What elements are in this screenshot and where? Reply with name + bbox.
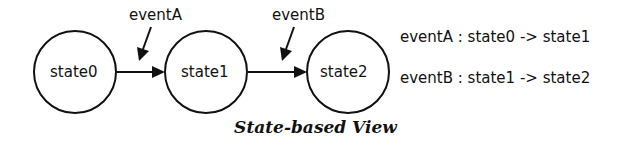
state2-label: state2 <box>320 63 368 81</box>
arrowhead-icon <box>152 66 165 78</box>
eventA-label: eventA <box>129 6 182 24</box>
state0-label: state0 <box>50 63 98 81</box>
arrowhead-icon <box>294 66 307 78</box>
eventB-label: eventB <box>272 6 325 24</box>
pointer-arrowhead-icon <box>280 47 292 61</box>
transition-text-a: eventA : state0 -> state1 <box>400 28 590 46</box>
state1-label: state1 <box>181 63 229 81</box>
transition-text-b: eventB : state1 -> state2 <box>400 69 590 87</box>
eventB-pointer <box>285 27 294 52</box>
diagram-caption: State-based View <box>0 117 631 137</box>
pointer-arrowhead-icon <box>137 47 149 61</box>
eventA-pointer <box>142 27 151 52</box>
